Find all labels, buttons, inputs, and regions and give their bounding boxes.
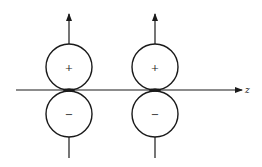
negative-sign: − (65, 109, 73, 120)
positive-sign: + (151, 62, 159, 73)
z-axis-label: z (244, 85, 250, 95)
negative-sign: − (151, 109, 159, 120)
dipole-right: + − (132, 14, 178, 158)
node-point (149, 88, 161, 92)
dipole-left: + − (46, 14, 92, 158)
positive-sign: + (65, 62, 73, 73)
node-point (63, 88, 75, 92)
dipole-diagram: z + − + − (0, 0, 262, 167)
